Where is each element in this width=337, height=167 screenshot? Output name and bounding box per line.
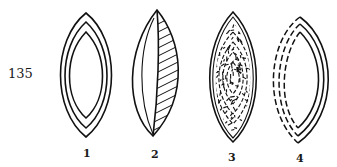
figure-3-stroke-mark (247, 132, 248, 135)
figure-3-stroke-mark (218, 21, 222, 23)
figure-3-stroke-mark (252, 22, 254, 24)
figure-2-hatching (150, 8, 190, 140)
figure-1: 1 (61, 13, 112, 160)
figure-3-stroke-mark (247, 129, 250, 131)
figure-3-stroke-mark (234, 128, 237, 129)
figure-3-stroke-mark (247, 105, 249, 108)
figure-2-inner-arc (142, 18, 154, 134)
figure-2: 2 (132, 8, 190, 161)
figure-3-stroke-mark (230, 99, 232, 100)
figure-3-stroke-mark (228, 30, 230, 32)
figure-3-stroke-mark (223, 47, 225, 48)
figure-3-stroke-mark (213, 83, 216, 85)
figure-3-stroke-mark (222, 119, 224, 121)
figure-3-stroke-mark (219, 130, 220, 132)
figure-3-stroke-mark (249, 128, 253, 131)
figure-3-stroke-mark (226, 32, 228, 33)
figure-3-stroke-mark (242, 58, 245, 59)
figure-3-stroke-mark (243, 77, 246, 79)
figure-3: 3 (210, 12, 257, 164)
figure-3-stroke-mark (240, 55, 241, 58)
figure-3-stroke-mark (213, 55, 215, 56)
figure-3-stroke-mark (214, 66, 217, 68)
figure-3-stroke-mark (232, 49, 234, 50)
figure-3-stroke-mark (230, 30, 234, 31)
figure-1-label: 1 (83, 147, 91, 160)
figure-4-inner-dashed-arc (284, 32, 300, 128)
figure-3-stroke-mark (233, 25, 234, 28)
figure-3-stroke-mark (224, 59, 225, 61)
figure-3-stroke-mark (225, 111, 227, 114)
figure-3-stroke-mark (216, 72, 218, 73)
figure-3-stroke-mark (212, 130, 214, 132)
figure-3-stroke-mark (251, 118, 252, 122)
figure-3-stroke-mark (253, 122, 255, 123)
figure-3-stroke-mark (250, 86, 252, 87)
figures-canvas: 1 2 3 (0, 0, 337, 167)
figure-3-stroke-mark (231, 37, 233, 39)
figure-4: 4 (273, 17, 328, 165)
figure-3-stroke-mark (220, 79, 221, 81)
figure-3-stroke-mark (251, 91, 252, 95)
figure-3-stroke-mark (219, 21, 224, 23)
figure-3-stroke-mark (225, 122, 227, 124)
figure-3-stroke-mark (238, 33, 241, 34)
figure-3-stroke-mark (220, 92, 221, 96)
figure-3-stroke-mark (216, 75, 217, 77)
figure-3-stroke-mark (238, 65, 240, 66)
figure-4-outer-dashed-arc (273, 17, 300, 143)
figure-3-stroke-mark (230, 96, 235, 97)
figure-3-stroke-mark (240, 119, 244, 121)
figure-1-inner-outline (70, 32, 103, 118)
figure-3-stroke-mark (232, 69, 233, 71)
figure-3-stroke-mark (236, 55, 237, 59)
figure-3-stroke-mark (240, 31, 242, 33)
figure-3-stroke-mark (231, 83, 233, 84)
figure-3-stroke-mark (246, 91, 247, 93)
figure-2-label: 2 (151, 148, 159, 161)
figure-3-stroke-mark (237, 96, 238, 98)
figure-1-middle-outline (65, 22, 107, 128)
figure-3-stroke-mark (222, 84, 224, 86)
figure-3-stroke-mark (221, 64, 224, 66)
figure-3-stroke-mark (233, 107, 235, 111)
figure-2-midline (153, 10, 158, 136)
figure-3-stroke-mark (231, 129, 234, 130)
figure-3-stroke-mark (246, 68, 249, 69)
figure-4-label: 4 (296, 152, 304, 165)
figure-3-stroke-mark (228, 123, 232, 125)
figure-3-stroke-mark (248, 68, 251, 71)
figure-3-label: 3 (228, 151, 236, 164)
figure-3-stroke-mark (235, 25, 238, 27)
figure-3-stroke-mark (219, 108, 222, 111)
figure-3-stroke-mark (230, 113, 232, 116)
figure-3-stroke-mark (227, 48, 228, 50)
figure-3-stroke-mark (247, 106, 248, 110)
